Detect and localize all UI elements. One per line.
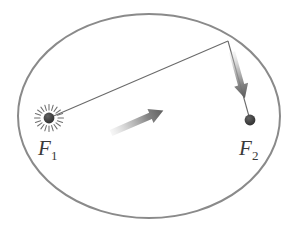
radius-line-f1 [49, 41, 228, 118]
focus-subscript-f2: 2 [252, 148, 259, 163]
focus-dot-f1 [44, 113, 55, 124]
diagram-canvas: F 1 F 2 [0, 0, 299, 229]
focus-dot-f2 [245, 115, 256, 126]
radius-vector-f2-arrow [225, 50, 252, 100]
focus-label-f1: F [37, 136, 51, 160]
focus-subscript-f1: 1 [51, 148, 58, 163]
focus-label-f2: F [238, 136, 252, 160]
radius-vector-f1-arrow [108, 103, 166, 140]
orbit-diagram: F 1 F 2 [0, 0, 299, 229]
